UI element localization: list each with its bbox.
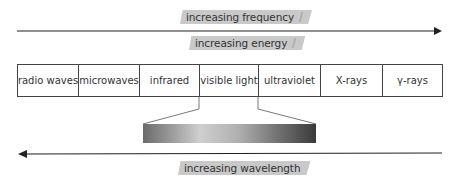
frequency-label-text: increasing frequency bbox=[186, 11, 294, 23]
band-visible-light: visible light bbox=[200, 65, 259, 96]
wavelength-label: increasing wavelength bbox=[178, 161, 310, 175]
energy-label: increasing energy bbox=[189, 36, 305, 50]
band-microwaves: microwaves bbox=[79, 65, 140, 96]
visible-spectrum-gradient bbox=[143, 124, 316, 143]
band-gamma-rays: γ-rays bbox=[383, 65, 442, 96]
tape-mark-icon bbox=[299, 12, 304, 22]
arrow-right-icon bbox=[434, 27, 442, 35]
connector-right bbox=[258, 97, 316, 124]
connector-left bbox=[143, 97, 199, 124]
energy-label-text: increasing energy bbox=[195, 37, 287, 49]
band-infrared: infrared bbox=[140, 65, 200, 96]
band-ultraviolet: ultraviolet bbox=[259, 65, 321, 96]
tape-mark-icon bbox=[292, 38, 297, 48]
frequency-label: increasing frequency bbox=[180, 10, 312, 24]
arrow-left-icon bbox=[18, 150, 27, 158]
band-radio-waves: radio waves bbox=[18, 65, 79, 96]
wavelength-arrow-line bbox=[24, 153, 442, 154]
spectrum-band: radio waves microwaves infrared visible … bbox=[17, 64, 443, 97]
band-x-rays: X-rays bbox=[321, 65, 383, 96]
wavelength-label-text: increasing wavelength bbox=[184, 162, 300, 174]
